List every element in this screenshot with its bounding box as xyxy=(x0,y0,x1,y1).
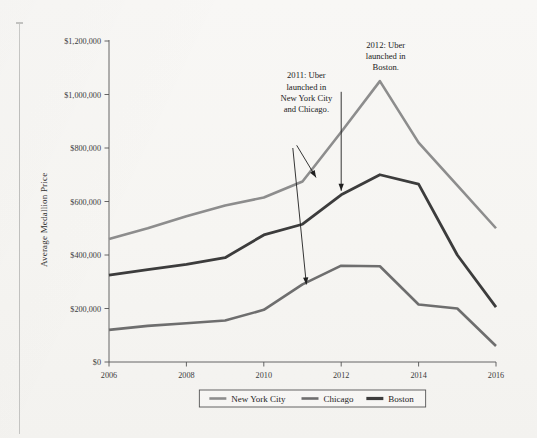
y-tick-label-600000: $600,000 xyxy=(70,198,101,207)
annotation-2012-arrowhead-1 xyxy=(339,184,344,191)
legend-label-chicago: Chicago xyxy=(324,394,354,404)
x-tick-label-2006: 2006 xyxy=(101,371,117,380)
y-tick-label-1200000: $1,200,000 xyxy=(64,37,101,46)
x-tick-label-2016: 2016 xyxy=(488,371,504,380)
chart-legend: New York CityChicagoBoston xyxy=(199,390,425,407)
y-tick-labels: $0$200,000$400,000$600,000$800,000$1,000… xyxy=(64,37,101,367)
annotation-2011-line-4: and Chicago. xyxy=(284,104,329,114)
x-tick-labels: 200620082010201220142016 xyxy=(101,371,504,380)
x-tick-label-2012: 2012 xyxy=(333,371,349,380)
annotation-2011-arrow-2 xyxy=(293,148,307,284)
annotation-layer: 2011: Uberlaunched inNew York Cityand Ch… xyxy=(280,40,406,285)
y-tick-label-0: $0 xyxy=(93,358,101,367)
legend-label-new-york-city: New York City xyxy=(231,394,286,404)
annotation-2012-line-2: launched in xyxy=(366,51,407,61)
y-tick-label-1000000: $1,000,000 xyxy=(64,91,101,100)
legend-label-boston: Boston xyxy=(388,394,414,404)
series-layer xyxy=(109,81,496,346)
annotation-2011-line-1: 2011: Uber xyxy=(287,70,326,80)
line-chart: Average Medallion Price $0$200,000$400,0… xyxy=(0,0,537,438)
annotation-2011-line-2: launched in xyxy=(286,82,327,92)
x-tick-label-2014: 2014 xyxy=(410,371,426,380)
y-axis-title: Average Medallion Price xyxy=(39,173,49,267)
annotation-2012: 2012: Uberlaunched inBoston. xyxy=(339,40,407,191)
chart-figure: Average Medallion Price $0$200,000$400,0… xyxy=(0,0,537,438)
annotation-2012-line-3: Boston. xyxy=(372,62,399,72)
x-tick-marks xyxy=(109,362,496,367)
x-tick-label-2008: 2008 xyxy=(178,371,194,380)
y-tick-label-800000: $800,000 xyxy=(70,144,101,153)
series-line-chicago xyxy=(109,266,496,346)
y-tick-label-400000: $400,000 xyxy=(70,251,101,260)
annotation-2011-line-3: New York City xyxy=(280,93,333,103)
x-tick-label-2010: 2010 xyxy=(256,371,272,380)
annotation-2012-line-1: 2012: Uber xyxy=(366,40,405,50)
y-tick-marks xyxy=(105,41,110,362)
y-tick-label-200000: $200,000 xyxy=(70,305,101,314)
